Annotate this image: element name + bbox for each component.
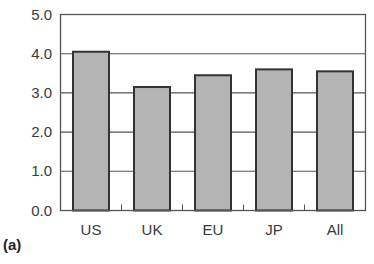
x-tick-label: JP bbox=[265, 221, 283, 238]
bar-us bbox=[73, 52, 109, 211]
y-tick-label: 0.0 bbox=[31, 202, 52, 219]
bar-jp bbox=[256, 69, 292, 210]
x-tick-label: EU bbox=[203, 221, 224, 238]
bars bbox=[73, 52, 353, 211]
y-tick-label: 4.0 bbox=[31, 45, 52, 62]
x-tick-label: UK bbox=[142, 221, 163, 238]
bar-chart: 0.01.02.03.04.05.0 USUKEUJPAll (a) bbox=[0, 0, 374, 264]
y-tick-label: 2.0 bbox=[31, 123, 52, 140]
panel-label: (a) bbox=[3, 236, 21, 253]
y-tick-label: 1.0 bbox=[31, 162, 52, 179]
x-axis-labels: USUKEUJPAll bbox=[81, 221, 344, 238]
y-tick-label: 3.0 bbox=[31, 84, 52, 101]
y-tick-label: 5.0 bbox=[31, 6, 52, 23]
y-axis-ticks: 0.01.02.03.04.05.0 bbox=[31, 6, 52, 219]
bar-all bbox=[317, 71, 353, 210]
x-tick-label: All bbox=[327, 221, 344, 238]
bar-eu bbox=[195, 75, 231, 210]
bar-uk bbox=[134, 87, 170, 210]
x-tick-label: US bbox=[81, 221, 102, 238]
